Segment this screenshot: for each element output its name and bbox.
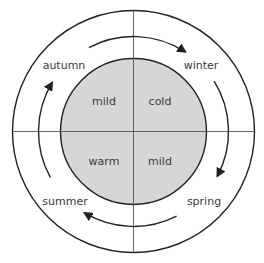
arrow-autumn-to-winter-icon <box>89 36 185 51</box>
quadrant-top-right: cold <box>149 95 172 108</box>
quadrant-bottom-right: mild <box>148 155 172 168</box>
quadrant-bottom-left: warm <box>89 155 120 168</box>
arrow-spring-to-summer-icon <box>85 213 177 227</box>
label-spring: spring <box>187 195 221 208</box>
label-autumn: autumn <box>43 59 86 72</box>
arrow-summer-to-autumn-icon <box>39 83 53 178</box>
quadrant-top-left: mild <box>92 95 116 108</box>
label-winter: winter <box>184 59 219 72</box>
seasonal-cycle-diagram: autumn winter summer spring mild cold wa… <box>0 0 264 263</box>
arrow-winter-to-spring-icon <box>214 81 228 176</box>
label-summer: summer <box>42 195 88 208</box>
